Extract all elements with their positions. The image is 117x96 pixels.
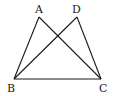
segment-dc: [77, 17, 101, 79]
segment-ac: [39, 17, 101, 79]
geometry-diagram: A D B C: [0, 0, 117, 96]
label-a: A: [34, 3, 44, 16]
segment-ab: [14, 17, 39, 79]
label-c: C: [99, 82, 107, 95]
label-d: D: [72, 3, 81, 16]
segment-db: [14, 17, 77, 79]
label-b: B: [7, 82, 15, 95]
